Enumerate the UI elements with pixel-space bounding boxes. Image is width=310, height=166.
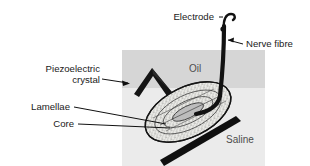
label-nerve-fibre: Nerve fibre xyxy=(246,38,293,49)
diagram-canvas: Electrode Nerve fibre Piezoelectric crys… xyxy=(0,0,310,166)
leader-nerve-fibre xyxy=(228,38,243,45)
label-piezoelectric-crystal-line2: crystal xyxy=(72,74,100,85)
label-saline: Saline xyxy=(226,134,254,145)
label-core: Core xyxy=(53,118,74,129)
label-oil: Oil xyxy=(189,63,201,74)
label-electrode: Electrode xyxy=(173,11,214,22)
label-lamellae: Lamellae xyxy=(31,101,70,112)
label-piezoelectric-crystal-line1: Piezoelectric xyxy=(46,63,101,74)
diagram-figure: Electrode Nerve fibre Piezoelectric crys… xyxy=(0,0,310,166)
